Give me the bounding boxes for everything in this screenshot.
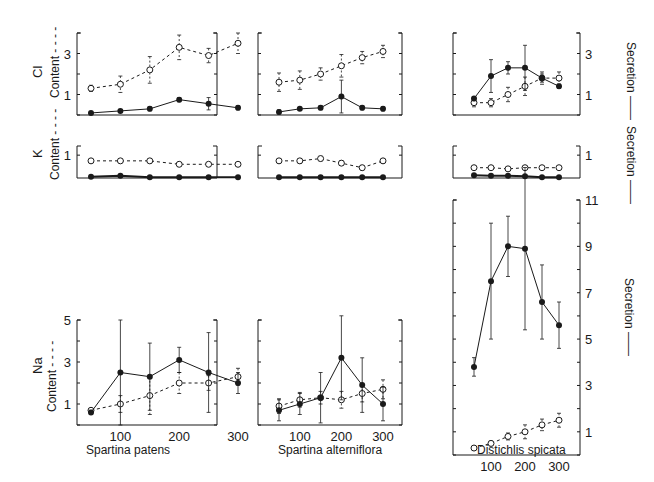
distichlis-spicata-na-secretion-line <box>474 246 559 367</box>
filled-marker <box>522 65 528 71</box>
open-marker <box>488 100 494 106</box>
filled-marker <box>505 65 511 71</box>
open-marker <box>147 158 153 164</box>
species-label-spartina-alterniflora: Spartina alterniflora <box>278 443 382 457</box>
open-marker <box>117 158 123 164</box>
na-secretion-axis-label: Secretion —— <box>622 278 636 356</box>
open-marker <box>176 44 182 50</box>
spartina-alterniflora-cl-secretion-line <box>279 97 383 112</box>
distichlis-spicata-k-secretion-line <box>474 175 559 177</box>
y-tick-label: 11 <box>585 193 599 208</box>
open-marker <box>505 433 511 439</box>
spartina-patens-na-secretion-line <box>91 360 238 413</box>
filled-marker <box>380 106 386 112</box>
cl-row-label: Cl <box>30 66 45 78</box>
open-marker <box>276 79 282 85</box>
filled-marker <box>88 174 94 180</box>
x-tick-label: 200 <box>514 459 536 474</box>
open-marker <box>359 165 365 171</box>
distichlis-spicata-cl-secretion-line <box>474 68 559 99</box>
x-tick-label: 100 <box>110 429 132 444</box>
distichlis-spicata-k-content-line <box>474 168 559 169</box>
filled-marker <box>276 174 282 180</box>
filled-marker <box>206 101 212 107</box>
filled-marker <box>147 106 153 112</box>
open-marker <box>471 165 477 171</box>
na-content-axis-label: Content - - - - <box>45 341 59 412</box>
filled-marker <box>359 174 365 180</box>
y-tick-label: 5 <box>585 332 592 347</box>
filled-marker <box>117 370 123 376</box>
open-marker <box>505 166 511 172</box>
filled-marker <box>235 174 241 180</box>
spartina-alterniflora-na-secretion-line <box>279 358 383 411</box>
filled-marker <box>556 322 562 328</box>
x-tick-label: 200 <box>168 429 190 444</box>
open-marker <box>176 380 182 386</box>
open-marker <box>380 158 386 164</box>
filled-marker <box>235 380 241 386</box>
spartina-alterniflora-k-content-line <box>279 159 383 168</box>
open-marker <box>88 85 94 91</box>
species-label-spartina-patens: Spartina patens <box>86 443 170 457</box>
filled-marker <box>117 173 123 179</box>
filled-marker <box>556 174 562 180</box>
k-row-label: K <box>30 149 45 158</box>
open-marker <box>556 75 562 81</box>
spartina-patens-cl-content-line <box>91 43 238 88</box>
filled-marker <box>539 75 545 81</box>
filled-marker <box>176 357 182 363</box>
y-tick-label: 3 <box>585 47 592 62</box>
filled-marker <box>471 364 477 370</box>
filled-marker <box>117 108 123 114</box>
filled-marker <box>380 401 386 407</box>
spartina-alterniflora-na-content-line <box>279 389 383 406</box>
filled-marker <box>471 172 477 178</box>
filled-marker <box>318 395 324 401</box>
na-row-label: Na <box>30 357 45 374</box>
y-tick-label: 1 <box>585 88 592 103</box>
k-content-axis-label: Content - - - - <box>48 109 62 180</box>
open-marker <box>235 161 241 167</box>
x-tick-label: 300 <box>548 459 570 474</box>
figure-canvas: 1313111351002003001002003001357911100200… <box>0 0 654 482</box>
filled-marker <box>88 110 94 116</box>
filled-marker <box>539 174 545 180</box>
filled-marker <box>318 105 324 111</box>
filled-marker <box>206 174 212 180</box>
y-tick-label: 5 <box>64 313 71 328</box>
y-tick-label: 1 <box>585 148 592 163</box>
y-tick-label: 3 <box>585 378 592 393</box>
spartina-patens-k-secretion-line <box>91 176 238 178</box>
filled-marker <box>297 174 303 180</box>
filled-marker <box>206 370 212 376</box>
y-tick-label: 1 <box>585 425 592 440</box>
open-marker <box>117 81 123 87</box>
open-marker <box>235 40 241 46</box>
open-marker <box>505 92 511 98</box>
open-marker <box>206 53 212 59</box>
open-marker <box>522 429 528 435</box>
open-marker <box>297 158 303 164</box>
cl-content-axis-label: Content - - - - <box>48 27 62 98</box>
filled-marker <box>556 83 562 89</box>
spartina-patens-k-content-line <box>91 161 238 164</box>
filled-marker <box>318 174 324 180</box>
filled-marker <box>176 97 182 103</box>
y-tick-label: 3 <box>64 47 71 62</box>
k-secretion-axis-label: Secretion —— <box>624 126 638 204</box>
filled-marker <box>539 299 545 305</box>
filled-marker <box>505 173 511 179</box>
filled-marker <box>235 105 241 111</box>
filled-marker <box>276 407 282 413</box>
open-marker <box>147 67 153 73</box>
y-tick-label: 9 <box>585 239 592 254</box>
y-tick-label: 1 <box>64 148 71 163</box>
open-marker <box>318 71 324 77</box>
filled-marker <box>471 96 477 102</box>
filled-marker <box>522 246 528 252</box>
filled-marker <box>338 94 344 100</box>
y-tick-label: 1 <box>64 88 71 103</box>
open-marker <box>488 165 494 171</box>
filled-marker <box>147 374 153 380</box>
